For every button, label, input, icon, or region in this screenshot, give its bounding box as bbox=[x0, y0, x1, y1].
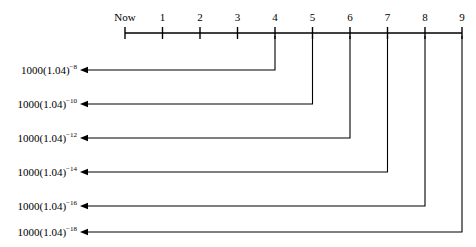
bracket-line-1 bbox=[87, 36, 275, 70]
present-value-label-1: 1000(1.04)−8 bbox=[21, 65, 77, 76]
arrowhead-3 bbox=[80, 135, 88, 141]
tick-label-3: 3 bbox=[235, 12, 241, 23]
tick-label-4: 4 bbox=[272, 12, 278, 23]
pv-exponent-6: −18 bbox=[66, 225, 77, 233]
tick-label-1: 1 bbox=[160, 12, 166, 23]
present-value-label-6: 1000(1.04)−18 bbox=[17, 227, 77, 238]
arrowhead-1 bbox=[80, 67, 88, 73]
bracket-line-5 bbox=[87, 36, 425, 206]
pv-base-4: 1000(1.04) bbox=[17, 166, 66, 178]
tick-label-8: 8 bbox=[422, 12, 428, 23]
pv-base-1: 1000(1.04) bbox=[21, 64, 70, 76]
arrowhead-4 bbox=[80, 169, 88, 175]
present-value-label-2: 1000(1.04)−10 bbox=[17, 99, 77, 110]
pv-base-6: 1000(1.04) bbox=[17, 226, 66, 238]
bracket-line-3 bbox=[87, 36, 350, 138]
tick-label-7: 7 bbox=[385, 12, 391, 23]
pv-exponent-4: −14 bbox=[66, 165, 77, 173]
tick-label-5: 5 bbox=[310, 12, 316, 23]
time-axis bbox=[125, 27, 462, 39]
tick-label-9: 9 bbox=[459, 12, 465, 23]
pv-exponent-3: −12 bbox=[66, 131, 77, 139]
pv-base-5: 1000(1.04) bbox=[17, 200, 66, 212]
arrowhead-6 bbox=[80, 229, 88, 235]
tick-label-6: 6 bbox=[347, 12, 353, 23]
pv-exponent-2: −10 bbox=[66, 97, 77, 105]
tick-label-2: 2 bbox=[197, 12, 203, 23]
present-value-label-4: 1000(1.04)−14 bbox=[17, 167, 77, 178]
present-value-label-5: 1000(1.04)−16 bbox=[17, 201, 77, 212]
arrowhead-2 bbox=[80, 101, 88, 107]
present-value-label-3: 1000(1.04)−12 bbox=[17, 133, 77, 144]
pv-exponent-5: −16 bbox=[66, 199, 77, 207]
pv-base-3: 1000(1.04) bbox=[17, 132, 66, 144]
pv-exponent-1: −8 bbox=[70, 63, 77, 71]
discount-bracket-lines bbox=[87, 36, 462, 232]
discounting-timeline-diagram: Now123456789 1000(1.04)−81000(1.04)−1010… bbox=[0, 0, 476, 247]
tick-label-now: Now bbox=[114, 12, 135, 23]
arrowhead-5 bbox=[80, 203, 88, 209]
arrowheads bbox=[80, 67, 88, 235]
pv-base-2: 1000(1.04) bbox=[17, 98, 66, 110]
